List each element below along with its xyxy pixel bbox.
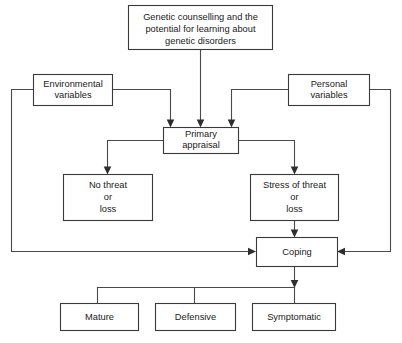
arrowhead-primary-to-stress: [291, 167, 299, 175]
node-stress-line-2: or: [290, 192, 298, 202]
node-primary-appraisal-line-2: appraisal: [182, 140, 220, 150]
node-stress-of-threat: Stress of threat or loss: [251, 175, 339, 221]
node-mature: Mature: [61, 304, 139, 331]
node-defensive-label: Defensive: [175, 312, 216, 322]
arrowhead-source-to-primary: [197, 120, 205, 128]
node-personal-line-2: variables: [310, 90, 348, 100]
node-coping: Coping: [257, 238, 338, 267]
edge-environmental-to-primary: [113, 90, 171, 122]
node-source-line-2: potential for learning about: [145, 24, 256, 34]
node-stress-line-1: Stress of threat: [263, 180, 326, 190]
arrowhead-primary-to-no-threat: [104, 167, 112, 175]
node-stress-line-3: loss: [286, 204, 303, 214]
edge-environmental-to-coping: [12, 90, 249, 252]
node-coping-label: Coping: [282, 247, 311, 257]
node-symptomatic: Symptomatic: [253, 304, 336, 331]
arrowhead-personal-to-coping: [337, 248, 345, 256]
node-no-threat-line-2: or: [104, 192, 112, 202]
flowchart-canvas: Genetic counselling and the potential fo…: [0, 0, 402, 343]
node-primary-appraisal-line-1: Primary: [185, 129, 217, 139]
node-mature-label: Mature: [85, 312, 114, 322]
node-symptomatic-label: Symptomatic: [267, 312, 321, 322]
arrowhead-coping-to-outcomes: [291, 280, 299, 288]
node-primary-appraisal: Primary appraisal: [164, 128, 239, 154]
arrowhead-environmental-to-primary: [167, 120, 175, 128]
node-environmental-variables: Environmental variables: [34, 75, 113, 106]
edge-primary-to-no-threat: [108, 141, 164, 169]
node-environmental-line-1: Environmental: [43, 79, 102, 89]
node-source-line-3: genetic disorders: [165, 36, 236, 46]
node-personal-variables: Personal variables: [289, 75, 370, 106]
arrowhead-stress-to-coping: [291, 230, 299, 238]
edge-personal-to-coping: [345, 90, 391, 252]
flowchart-diagram: Genetic counselling and the potential fo…: [0, 0, 402, 343]
node-defensive: Defensive: [156, 304, 236, 331]
node-no-threat: No threat or loss: [64, 175, 153, 221]
arrowhead-environmental-to-coping: [248, 248, 256, 256]
node-personal-line-1: Personal: [311, 79, 348, 89]
node-no-threat-line-3: loss: [100, 204, 117, 214]
node-environmental-line-2: variables: [54, 90, 92, 100]
node-source-line-1: Genetic counselling and the: [143, 12, 258, 22]
edge-primary-to-stress: [239, 141, 295, 169]
arrowhead-personal-to-primary: [228, 120, 236, 128]
node-no-threat-line-1: No threat: [89, 180, 128, 190]
node-source: Genetic counselling and the potential fo…: [129, 6, 273, 50]
edge-personal-to-primary: [232, 90, 289, 122]
